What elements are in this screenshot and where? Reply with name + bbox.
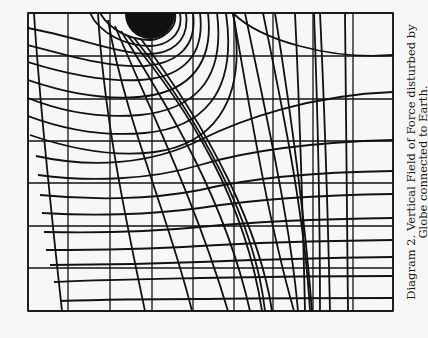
- field-line: [121, 31, 250, 311]
- equipotential-line: [54, 276, 393, 282]
- equipotential-line: [28, 13, 209, 98]
- field-line: [320, 13, 330, 311]
- equipotential-line: [28, 13, 218, 116]
- equipotential-line: [46, 240, 393, 250]
- field-line: [127, 35, 262, 311]
- field-line: [233, 13, 294, 311]
- caption-line-2: Globe connected to Earth.: [416, 12, 428, 312]
- diagram-figure: [0, 0, 428, 338]
- equipotential-line: [40, 171, 393, 198]
- field-line: [34, 13, 62, 311]
- equipotential-line: [44, 218, 393, 232]
- field-line: [345, 13, 348, 311]
- equipotential-line: [50, 257, 393, 265]
- field-line: [314, 13, 320, 311]
- field-diagram: [0, 0, 428, 338]
- field-line: [263, 13, 310, 311]
